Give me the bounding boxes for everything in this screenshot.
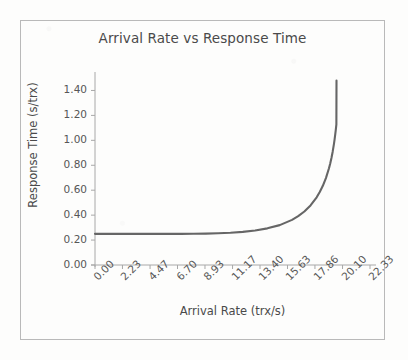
y-tick-label: 0.60 [47,183,87,195]
y-tick-label: 0.80 [47,158,87,170]
y-axis-title: Response Time (s/trx) [26,65,40,225]
figure-root: Arrival Rate vs Response Time 0.000.200.… [0,0,408,360]
data-series-layer [95,80,337,233]
series-line-response-time [95,80,337,233]
y-tick-label: 1.00 [47,133,87,145]
y-tick-label: 1.20 [47,108,87,120]
x-axis-title: Arrival Rate (trx/s) [95,304,370,318]
axis-layer [91,72,376,267]
y-tick-label: 0.00 [47,258,87,270]
y-tick-label: 0.20 [47,233,87,245]
tick-mark-layer [91,90,370,269]
y-tick-label: 0.40 [47,208,87,220]
y-tick-label: 1.40 [47,83,87,95]
